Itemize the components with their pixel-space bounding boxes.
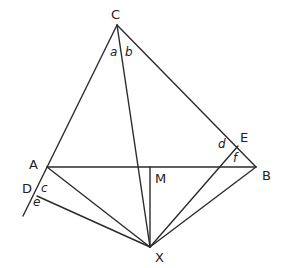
angle-a: a — [110, 45, 117, 59]
label-m: M — [155, 171, 166, 186]
angle-f: f — [233, 151, 239, 165]
label-c: C — [111, 7, 120, 22]
line-e-x — [150, 146, 238, 247]
line-c-b — [117, 25, 256, 167]
label-x: X — [155, 250, 164, 265]
angle-b: b — [125, 45, 133, 59]
label-e: E — [240, 130, 248, 145]
line-c-a-d — [23, 25, 117, 216]
angle-e: e — [33, 195, 40, 209]
angle-d: d — [218, 137, 226, 151]
line-c-x — [117, 25, 150, 247]
geometry-diagram: C A B M X D E a b c d e f — [0, 0, 286, 268]
angle-c: c — [41, 181, 48, 195]
label-a: A — [29, 157, 38, 172]
label-d: D — [22, 181, 32, 196]
label-b: B — [262, 168, 271, 183]
